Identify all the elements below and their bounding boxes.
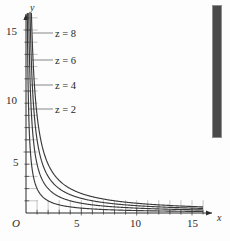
- origin-label: O: [12, 218, 20, 229]
- axis-ticks: [24, 18, 204, 216]
- curve-label-z6: z = 6: [55, 56, 76, 67]
- axis-lines: [23, 14, 212, 216]
- x-tick-label-5: 5: [74, 218, 80, 229]
- y-tick-label-10: 10: [6, 95, 17, 106]
- y-tick-label-15: 15: [6, 26, 17, 37]
- y-axis-name: y: [30, 3, 34, 13]
- curve-label-z8: z = 8: [55, 29, 76, 40]
- scan-edge-bar: [212, 5, 222, 138]
- plot-canvas: [0, 0, 230, 241]
- contour-plot-figure: y x O 15 10 5 5 10 15 z = 8 z = 6 z = 4 …: [0, 0, 230, 241]
- curve-label-z2: z = 2: [55, 105, 76, 116]
- y-tick-label-5: 5: [13, 157, 19, 168]
- curve-label-z4: z = 4: [55, 81, 76, 92]
- x-tick-label-15: 15: [187, 218, 198, 229]
- x-axis-name: x: [217, 213, 221, 223]
- x-tick-label-10: 10: [130, 218, 141, 229]
